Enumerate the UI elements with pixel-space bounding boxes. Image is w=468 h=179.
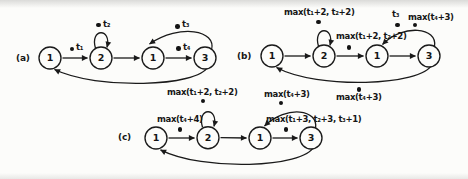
state-label: 1 (374, 50, 381, 61)
edge-a-3-to-1-bottom (55, 67, 209, 84)
figure-a-tag: (a) (16, 53, 30, 63)
token-dot-icon (395, 23, 399, 27)
figure-b-tag: (b) (237, 51, 251, 61)
figure-b-label-top-right: max(t₄+3) (408, 13, 454, 23)
state-label: 1 (257, 132, 264, 143)
figure-b-label-selfloop: max(t₁+2, t₂+2) (284, 8, 354, 18)
state-label: 2 (321, 50, 328, 61)
state-label: 2 (98, 52, 105, 63)
figure-c-label-top-right: max(t₄+3) (264, 90, 310, 100)
figure-a-label-t1: t₁ (76, 43, 83, 53)
token-dot-icon (347, 45, 351, 49)
edge-a-2-selfloop (94, 33, 107, 49)
figure-c-label-left: max(t₄+4) (157, 115, 203, 125)
figure-c-label-long: max(t₁+3, t₂+3, t₃+1) (266, 115, 361, 125)
figure-a-graph: 1 2 1 3 (39, 31, 216, 83)
state-label: 1 (150, 52, 157, 63)
timed-event-graph-figure: 1 2 1 3 1 2 1 3 (0, 0, 468, 179)
figure-b-label-mid: max(t₁+2, t₂+2) (336, 32, 406, 42)
figure-a-label-t4: t₄ (183, 43, 190, 53)
figure-a-label-t2: t₂ (103, 20, 110, 30)
edge-c-2-selfloop (201, 112, 214, 128)
token-dot-icon (175, 24, 179, 28)
figure-c-label-selfloop: max(t₁+2, t₂+2) (167, 88, 237, 98)
token-dot-icon (96, 23, 100, 27)
state-label: 1 (47, 52, 54, 63)
figure-b-label-bottom: max(t₄+3) (336, 93, 382, 103)
state-label: 3 (426, 50, 433, 61)
state-label: 1 (153, 132, 160, 143)
edge-b-2-selfloop (317, 31, 330, 47)
token-dot-icon (178, 127, 182, 131)
figure-b-label-t3: t₃ (392, 10, 399, 20)
state-label: 3 (308, 132, 315, 143)
state-label: 1 (269, 50, 276, 61)
token-dot-icon (284, 127, 288, 131)
edge-b-3-to-1-bottom (277, 65, 433, 83)
figure-a-label-t3: t₃ (182, 20, 189, 30)
figure-c-tag: (c) (118, 132, 131, 142)
edge-c-3-to-1-bottom (161, 147, 315, 165)
state-label: 3 (202, 52, 209, 63)
state-label: 2 (205, 132, 212, 143)
token-dot-icon (176, 46, 180, 50)
